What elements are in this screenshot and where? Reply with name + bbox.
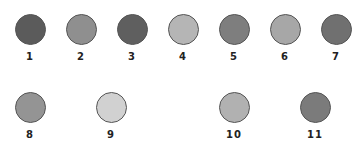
swatch-8 [15, 92, 46, 123]
swatch-3 [117, 14, 148, 45]
swatch-label-1: 1 [15, 51, 45, 63]
swatch-4 [168, 14, 199, 45]
swatch-label-8: 8 [15, 129, 45, 141]
swatch-7 [321, 14, 352, 45]
swatch-label-2: 2 [66, 51, 96, 63]
swatch-label-4: 4 [168, 51, 198, 63]
swatch-label-11: 11 [300, 129, 330, 141]
swatch-label-6: 6 [270, 51, 300, 63]
swatch-label-5: 5 [219, 51, 249, 63]
swatch-6 [270, 14, 301, 45]
swatch-label-10: 10 [219, 129, 249, 141]
swatch-1 [15, 14, 46, 45]
swatch-10 [219, 92, 250, 123]
swatch-label-7: 7 [321, 51, 351, 63]
swatch-label-3: 3 [117, 51, 147, 63]
swatch-5 [219, 14, 250, 45]
swatch-2 [66, 14, 97, 45]
swatch-label-9: 9 [96, 129, 126, 141]
swatch-9 [96, 92, 127, 123]
swatch-11 [300, 92, 331, 123]
